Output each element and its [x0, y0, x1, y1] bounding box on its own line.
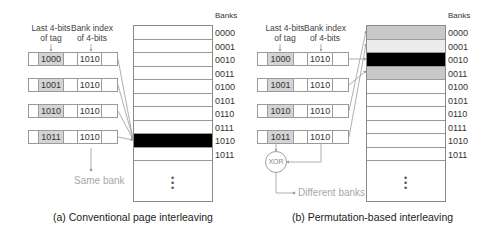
connector-arrows — [0, 0, 491, 227]
